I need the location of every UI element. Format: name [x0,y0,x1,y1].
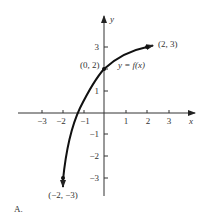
x-tick-label: −3 [37,116,47,126]
y-tick-label: −2 [89,151,99,161]
x-tick-label: 2 [146,116,151,126]
x-axis-label: x [188,116,193,126]
figure-caption: A. [14,204,23,214]
x-tick-label: −1 [80,116,90,126]
point-m2-m3 [61,176,65,180]
point-label-0-2: (0, 2) [80,60,100,70]
y-tick-label: −3 [89,173,99,183]
curve-label: y = f(x) [117,60,145,70]
y-tick-label: 1 [95,86,100,96]
x-tick-label: 1 [124,116,129,126]
point-2-3 [145,45,149,49]
y-tick-label: 3 [95,42,100,52]
point-label-m2-m3: (−2, −3) [48,190,78,200]
y-tick-label: −1 [89,129,99,139]
x-tick-label: 3 [167,116,172,126]
y-axis-label: y [109,14,114,24]
point-label-2-3: (2, 3) [158,39,178,49]
function-graph: −3 −2 −1 1 2 3 x 3 1 −1 −2 −3 y (0, 2) (… [0,0,208,221]
point-0-2 [102,67,106,71]
x-tick-label: −2 [56,116,66,126]
